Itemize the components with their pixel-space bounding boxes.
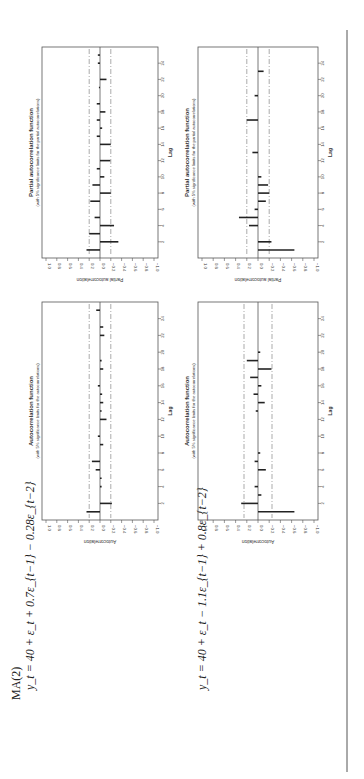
lag-tick-label: 2 [320, 240, 325, 243]
value-tick-label: −0.8 [144, 525, 149, 534]
lag-tick-label: 22 [160, 76, 165, 81]
value-tick-label: −0.2 [111, 263, 116, 272]
value-tick-label: 0.6 [68, 263, 73, 269]
textbook-page: MA(2) y_t = 40 + ε_t + 0.7ε_{t−1} − 0.28… [0, 0, 364, 779]
value-tick-label: −0.4 [122, 525, 127, 534]
value-tick-label: −0.2 [111, 525, 116, 534]
value-tick-label: −0.8 [303, 263, 308, 272]
chart-title: Partial autocorrelation function [28, 108, 34, 197]
value-tick-label: 1.0 [203, 263, 208, 269]
value-tick-label: 0.8 [214, 263, 219, 269]
lag-tick-label: 14 [160, 400, 165, 405]
charts-container: 1.00.80.60.40.20.0−0.2−0.4−0.6−0.8−1.0Au… [28, 47, 333, 544]
value-tick-label: 0.8 [57, 525, 62, 531]
lag-tick-label: 12 [320, 158, 325, 163]
lag-tick-label: 24 [160, 60, 165, 65]
lag-tick-label: 10 [320, 433, 325, 438]
value-tick-label: −1.0 [315, 263, 320, 272]
lag-tick-label: 6 [320, 468, 325, 471]
equation-2: y_t = 40 + ε_t − 1.1ε_{t−1} + 0.8ε_{t−2} [195, 487, 209, 691]
lag-tick-label: 8 [320, 451, 325, 454]
value-axis-label: Partial autocorrelation [76, 277, 123, 282]
value-tick-label: 0.0 [259, 525, 264, 531]
lag-axis-label: Lag [167, 407, 173, 416]
lag-tick-label: 12 [160, 416, 165, 421]
lag-tick-label: 14 [160, 141, 165, 146]
lag-tick-label: 12 [320, 416, 325, 421]
value-tick-label: −0.8 [144, 263, 149, 272]
chart-subtitle: (with 5% significance limits for the aut… [191, 363, 196, 459]
value-tick-label: 0.4 [79, 263, 84, 269]
lag-axis-label: Lag [327, 407, 333, 416]
chart-title: Autocorrelation function [28, 376, 34, 446]
lag-tick-label: 16 [160, 125, 165, 130]
lag-tick-label: 18 [160, 109, 165, 114]
value-tick-label: 0.4 [236, 263, 241, 269]
lag-axis-label: Lag [327, 148, 333, 157]
value-tick-label: −0.6 [292, 263, 297, 272]
lag-tick-label: 22 [320, 332, 325, 337]
lag-tick-label: 2 [160, 240, 165, 243]
lag-tick-label: 6 [160, 468, 165, 471]
model-2-label-group: y_t = 40 + ε_t − 1.1ε_{t−1} + 0.8ε_{t−2} [195, 487, 209, 691]
equation-1: y_t = 40 + ε_t + 0.7ε_{t−1} − 0.28ε_{t−2… [23, 481, 37, 691]
lag-tick-label: 10 [320, 174, 325, 179]
value-tick-label: −0.4 [281, 263, 286, 272]
value-axis-label: Partial autocorrelation [234, 277, 281, 282]
lag-tick-label: 8 [160, 451, 165, 454]
lag-tick-label: 4 [320, 485, 325, 488]
lag-tick-label: 24 [320, 60, 325, 65]
value-tick-label: 0.6 [68, 525, 73, 531]
value-axis-label: Autocorrelation [242, 539, 275, 544]
lag-tick-label: 4 [320, 224, 325, 227]
chart-subtitle: (with 5% significance limits for the par… [35, 98, 40, 206]
value-tick-label: 0.2 [90, 525, 95, 531]
lag-tick-label: 14 [320, 400, 325, 405]
lag-tick-label: 6 [320, 208, 325, 211]
pacf-model1-chart: 1.00.80.60.40.20.0−0.2−0.4−0.6−0.8−1.0Pa… [28, 47, 173, 282]
lag-tick-label: 10 [160, 174, 165, 179]
lag-tick-label: 12 [160, 158, 165, 163]
model-1-label-group: MA(2) y_t = 40 + ε_t + 0.7ε_{t−1} − 0.28… [9, 481, 37, 700]
value-tick-label: 0.6 [225, 263, 230, 269]
lag-tick-label: 24 [160, 316, 165, 321]
value-tick-label: −0.6 [292, 525, 297, 534]
lag-tick-label: 20 [160, 93, 165, 98]
value-tick-label: 0.2 [90, 263, 95, 269]
value-tick-label: 1.0 [203, 525, 208, 531]
chart-subtitle: (with 5% significance limits for the par… [191, 98, 196, 206]
lag-tick-label: 8 [160, 191, 165, 194]
value-axis-label: Autocorrelation [84, 539, 117, 544]
lag-axis-label: Lag [167, 148, 173, 157]
lag-tick-label: 18 [160, 366, 165, 371]
lag-tick-label: 22 [160, 332, 165, 337]
lag-tick-label: 10 [160, 433, 165, 438]
value-tick-label: −1.0 [155, 525, 160, 534]
value-tick-label: 0.0 [101, 263, 106, 269]
value-tick-label: −0.4 [281, 525, 286, 534]
chart-title: Partial autocorrelation function [184, 108, 190, 197]
lag-tick-label: 2 [160, 502, 165, 505]
model-label: MA(2) [9, 667, 23, 700]
lag-tick-label: 2 [320, 502, 325, 505]
lag-tick-label: 16 [160, 383, 165, 388]
value-tick-label: −0.6 [133, 525, 138, 534]
value-tick-label: 0.0 [101, 525, 106, 531]
value-tick-label: 0.4 [79, 525, 84, 531]
acf-model1-chart: 1.00.80.60.40.20.0−0.2−0.4−0.6−0.8−1.0Au… [28, 302, 173, 544]
lag-tick-label: 22 [320, 76, 325, 81]
value-tick-label: −0.2 [270, 263, 275, 272]
lag-tick-label: 20 [320, 349, 325, 354]
lag-tick-label: 8 [320, 191, 325, 194]
lag-tick-label: 4 [160, 485, 165, 488]
lag-tick-label: 16 [320, 125, 325, 130]
value-tick-label: −1.0 [155, 263, 160, 272]
lag-tick-label: 6 [160, 208, 165, 211]
chart-subtitle: (with 5% significance limits for the aut… [35, 363, 40, 459]
value-tick-label: 0.8 [57, 263, 62, 269]
lag-tick-label: 18 [320, 366, 325, 371]
value-tick-label: −0.8 [303, 525, 308, 534]
value-tick-label: −0.4 [122, 263, 127, 272]
lag-tick-label: 20 [320, 93, 325, 98]
value-tick-label: −1.0 [315, 525, 320, 534]
